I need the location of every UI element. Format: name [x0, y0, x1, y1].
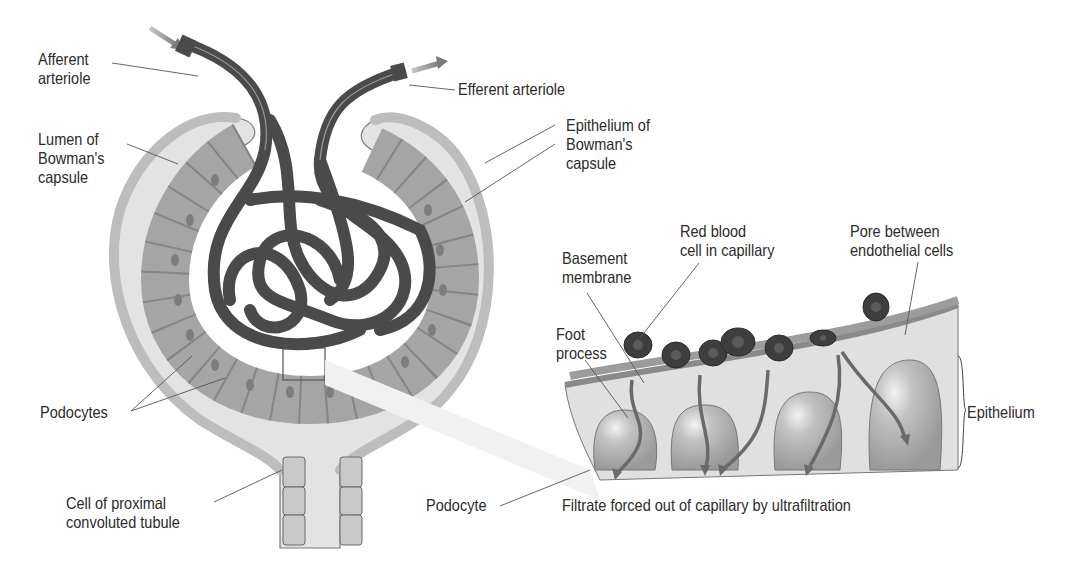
label-epithelium: Epithelium — [967, 403, 1035, 422]
label-efferent-arteriole: Efferent arteriole — [458, 80, 565, 99]
label-lumen-bowmans-capsule: Lumen of Bowman's capsule — [38, 130, 105, 187]
label-epithelium-bowmans-capsule: Epithelium of Bowman's capsule — [566, 116, 650, 173]
label-podocytes: Podocytes — [40, 403, 108, 422]
label-basement-membrane: Basement membrane — [562, 249, 631, 287]
glomerulus-capillaries — [190, 45, 430, 344]
label-podocyte: Podocyte — [426, 496, 487, 515]
label-afferent-arteriole: Afferent arteriole — [38, 50, 90, 88]
label-foot-process: Foot process — [556, 325, 607, 363]
filtration-detail — [565, 293, 966, 480]
label-proximal-tubule-cell: Cell of proximal convoluted tubule — [66, 494, 180, 532]
label-red-blood-cell: Red blood cell in capillary — [680, 222, 774, 260]
label-filtrate: Filtrate forced out of capillary by ultr… — [562, 496, 851, 515]
efferent-flow-arrow-icon — [412, 56, 448, 71]
label-pore-endothelial: Pore between endothelial cells — [850, 222, 953, 260]
